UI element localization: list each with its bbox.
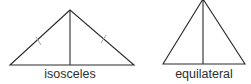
equilateral-outline: [163, 0, 245, 64]
isosceles-outline: [10, 10, 134, 65]
triangles-diagram: isosceles equilateral: [0, 0, 251, 84]
equilateral-triangle: equilateral: [163, 0, 245, 81]
isosceles-label: isosceles: [44, 67, 95, 81]
right-equal-side-tick: [101, 35, 106, 43]
isosceles-triangle: isosceles: [10, 10, 134, 81]
equilateral-label: equilateral: [175, 67, 233, 81]
